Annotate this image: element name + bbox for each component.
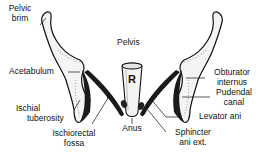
label-levator-ani: Levator ani (199, 112, 241, 122)
label-pelvis: Pelvis (117, 38, 140, 48)
label-pelvic-brim: Pelvic brim (2, 4, 38, 23)
pelvis-diagram: R Pelvic brim Pelvis Acetabulum Ischial … (0, 0, 264, 160)
label-anus: Anus (118, 124, 146, 134)
label-sphincter-ani-ext: Sphincter ani ext. (168, 128, 218, 147)
label-ischiorectal-fossa: Ischiorectal fossa (44, 129, 104, 148)
rectum-letter: R (128, 73, 136, 85)
label-ischial-tuberosity: Ischial tuberosity (8, 104, 80, 123)
label-pudendal-canal: Pudendal canal (210, 88, 258, 107)
label-obturator-internus: Obturator internus (208, 68, 256, 87)
label-acetabulum: Acetabulum (9, 67, 54, 77)
